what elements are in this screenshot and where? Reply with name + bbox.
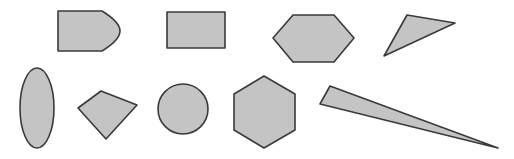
shapes-canvas (0, 0, 514, 159)
shapes-svg (0, 0, 514, 159)
bullet-shape (58, 11, 120, 51)
ellipse-shape (20, 68, 54, 148)
wide-hexagon-shape (273, 15, 354, 62)
needle-triangle-shape (320, 86, 498, 148)
circle-shape (158, 84, 208, 134)
rectangle-shape (167, 12, 225, 48)
regular-hexagon-shape (234, 76, 295, 148)
triangle-shape (384, 15, 455, 56)
kite-shape (78, 91, 137, 139)
